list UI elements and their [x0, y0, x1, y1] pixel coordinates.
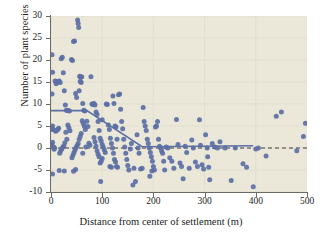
data-point	[113, 160, 118, 165]
data-point	[69, 155, 74, 160]
data-point	[217, 139, 222, 144]
data-point	[80, 151, 85, 156]
data-point	[244, 165, 249, 170]
y-tick-label: 0	[16, 143, 42, 152]
data-point	[92, 135, 97, 140]
data-point	[143, 124, 148, 129]
x-tick-label: 200	[133, 197, 173, 206]
data-point	[84, 119, 89, 124]
data-point	[94, 144, 99, 149]
y-tick-mark	[46, 170, 50, 171]
x-tick-label: 500	[287, 197, 322, 206]
y-tick-label: 25	[16, 33, 42, 42]
plot-area	[51, 16, 307, 192]
data-point	[87, 143, 92, 148]
data-point	[80, 101, 85, 106]
data-point	[124, 157, 129, 162]
data-point	[156, 137, 161, 142]
data-point	[118, 107, 123, 112]
y-tick-mark	[46, 38, 50, 39]
data-point	[174, 117, 179, 122]
data-point	[93, 102, 98, 107]
data-point	[294, 148, 299, 153]
data-point	[184, 150, 189, 155]
data-point	[148, 150, 153, 155]
data-point	[53, 129, 58, 134]
data-point	[62, 88, 67, 93]
x-tick-label: 400	[236, 197, 276, 206]
data-point	[105, 102, 110, 107]
x-tick-label: 100	[82, 197, 122, 206]
y-tick-label: 20	[16, 55, 42, 64]
data-point	[141, 105, 146, 110]
gridlines	[51, 16, 307, 192]
x-tick-label: 300	[185, 197, 225, 206]
data-point	[61, 70, 66, 75]
data-point	[70, 58, 75, 63]
y-tick-mark	[46, 126, 50, 127]
data-point	[147, 174, 152, 179]
data-point	[108, 136, 113, 141]
y-tick-label: -5	[16, 165, 42, 174]
data-point	[98, 179, 103, 184]
y-tick-label: -10	[16, 187, 42, 196]
data-point	[197, 117, 202, 122]
data-point	[109, 141, 114, 146]
data-point	[121, 137, 126, 142]
data-point	[181, 176, 186, 181]
data-point	[110, 94, 115, 99]
y-tick-label: 5	[16, 121, 42, 130]
data-point	[72, 39, 77, 44]
data-point	[140, 166, 145, 171]
data-point	[126, 168, 131, 173]
data-point	[160, 151, 165, 156]
data-point	[103, 150, 108, 155]
data-point	[51, 171, 55, 176]
y-axis-title: Number of plant species	[19, 0, 30, 136]
data-point	[149, 154, 154, 159]
data-point	[241, 161, 246, 166]
data-point	[251, 184, 256, 189]
data-point	[207, 177, 212, 182]
y-tick-mark	[46, 16, 50, 17]
data-point	[120, 126, 125, 131]
data-point	[154, 124, 159, 129]
y-tick-label: 10	[16, 99, 42, 108]
data-point	[77, 137, 82, 142]
x-axis-title: Distance from center of settlement (m)	[0, 216, 322, 227]
data-point	[189, 138, 194, 143]
x-axis-spine	[50, 192, 308, 193]
data-point	[95, 148, 100, 153]
x-tick-label: 0	[31, 197, 71, 206]
data-point	[179, 164, 184, 169]
data-point	[111, 151, 116, 156]
data-point	[303, 121, 307, 126]
data-point	[51, 70, 55, 75]
data-point	[123, 151, 128, 156]
data-point	[279, 109, 284, 114]
data-point	[137, 151, 142, 156]
data-points	[51, 17, 307, 189]
y-tick-mark	[46, 82, 50, 83]
data-point	[133, 179, 138, 184]
data-point	[145, 137, 150, 142]
data-point	[187, 166, 192, 171]
data-point	[119, 119, 124, 124]
fitted-curve	[51, 111, 253, 147]
data-point	[149, 168, 154, 173]
data-point	[52, 146, 57, 151]
data-point	[142, 119, 147, 124]
y-tick-label: 15	[16, 77, 42, 86]
data-point	[115, 165, 120, 170]
data-point	[76, 25, 81, 30]
data-point	[155, 119, 160, 124]
data-point	[150, 159, 155, 164]
y-tick-mark	[46, 104, 50, 105]
data-point	[136, 146, 141, 151]
data-point	[131, 166, 136, 171]
data-point	[60, 55, 65, 60]
data-point	[274, 114, 279, 119]
data-point	[62, 168, 67, 173]
data-point	[128, 146, 133, 151]
y-tick-mark	[46, 192, 50, 193]
